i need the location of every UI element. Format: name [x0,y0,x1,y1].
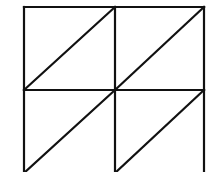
diagonal-line-2 [24,90,115,172]
diagonal-line-0 [24,7,115,90]
grid-diagram [0,0,220,172]
diagonal-line-3 [115,90,204,172]
diagonal-line-1 [115,7,204,90]
